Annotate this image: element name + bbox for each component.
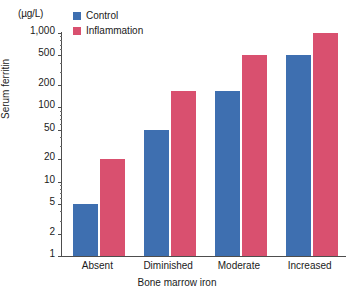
y-axis-unit-label: (µg/L): [18, 8, 43, 19]
y-tick-label: 10: [44, 175, 55, 185]
y-tick-mark: [60, 111, 62, 112]
y-tick-label: 2: [49, 227, 55, 237]
y-tick-mark: [60, 72, 62, 73]
y-tick-mark: [60, 115, 62, 116]
bar-diminished-inflammation: [171, 91, 196, 256]
y-tick-label: 200: [38, 78, 55, 88]
x-tick-label-absent: Absent: [62, 260, 133, 271]
bar-increased-inflammation: [313, 33, 338, 256]
y-tick-mark: [60, 221, 62, 222]
y-tick-mark: [60, 124, 62, 125]
y-tick-mark: [60, 185, 62, 186]
y-tick-mark: [58, 234, 62, 235]
y-tick-mark: [58, 85, 62, 86]
y-tick-mark: [58, 182, 62, 183]
y-tick-mark: [58, 107, 62, 108]
bar-moderate-control: [215, 91, 240, 256]
y-tick-label: 50: [44, 123, 55, 133]
y-tick-mark: [60, 189, 62, 190]
legend-swatch-control: [73, 12, 81, 20]
y-tick-mark: [60, 63, 62, 64]
y-axis-title: Serum ferritin: [0, 9, 11, 119]
y-tick-mark: [60, 49, 62, 50]
y-tick-mark: [58, 55, 62, 56]
x-tick-label-diminished: Diminished: [133, 260, 204, 271]
y-tick-label: 500: [38, 48, 55, 58]
bar-increased-control: [286, 55, 311, 256]
y-tick-mark: [58, 159, 62, 160]
y-tick-label: 1,000: [30, 26, 55, 36]
y-tick-mark: [60, 211, 62, 212]
x-axis-title: Bone marrow iron: [0, 277, 354, 288]
y-tick-mark: [58, 256, 62, 257]
x-tick-label-increased: Increased: [274, 260, 345, 271]
bar-diminished-control: [144, 130, 169, 256]
y-tick-label: 5: [49, 197, 55, 207]
chart-figure: (µg/L) Control Inflammation Serum ferrit…: [0, 0, 354, 295]
legend-label-control: Control: [86, 11, 118, 21]
y-tick-mark: [60, 137, 62, 138]
y-tick-mark: [60, 146, 62, 147]
y-tick-mark: [60, 119, 62, 120]
y-tick-mark: [58, 204, 62, 205]
x-axis-line: [61, 256, 346, 257]
y-tick-mark: [58, 33, 62, 34]
y-tick-mark: [60, 193, 62, 194]
plot-area: 1251020501002005001,000: [62, 33, 345, 256]
y-tick-mark: [58, 130, 62, 131]
y-tick-mark: [60, 40, 62, 41]
bar-absent-control: [73, 204, 98, 256]
y-tick-mark: [60, 36, 62, 37]
y-tick-label: 1: [49, 249, 55, 259]
y-tick-mark: [60, 198, 62, 199]
y-tick-label: 100: [38, 100, 55, 110]
bar-moderate-inflammation: [242, 55, 267, 256]
legend-item-control: Control: [73, 9, 143, 22]
x-tick-label-moderate: Moderate: [204, 260, 275, 271]
y-tick-mark: [60, 45, 62, 46]
bar-absent-inflammation: [100, 159, 125, 256]
y-tick-label: 20: [44, 152, 55, 162]
